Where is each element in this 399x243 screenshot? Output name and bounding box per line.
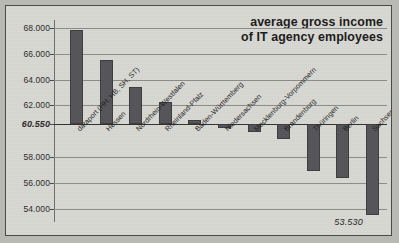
y-tick-label: 58.000: [23, 152, 50, 162]
gridline: [54, 28, 387, 29]
category-label: Sachsen: [370, 107, 392, 134]
bar: [366, 124, 379, 215]
y-tick-mark: [50, 157, 54, 158]
y-tick-mark: [50, 54, 54, 55]
gridline: [54, 183, 387, 184]
y-tick-label: 56.000: [23, 178, 50, 188]
plot-area: 68.00066.00064.00062.00060.55058.00056.0…: [54, 20, 387, 222]
y-tick-mark: [50, 80, 54, 81]
bar: [70, 30, 83, 124]
y-tick-mark: [50, 209, 54, 210]
y-tick-mark: [50, 183, 54, 184]
y-tick-label: 60.550: [22, 119, 50, 129]
y-tick-mark: [50, 124, 54, 125]
y-tick-label: 68.000: [23, 23, 50, 33]
gridline: [54, 209, 387, 210]
chart-card: average gross income of IT agency employ…: [5, 5, 392, 236]
y-tick-mark: [50, 28, 54, 29]
value-annotation: 53.530: [334, 217, 363, 227]
y-axis-line: [54, 20, 55, 222]
y-tick-label: 66.000: [23, 49, 50, 59]
gridline: [54, 54, 387, 55]
y-tick-mark: [50, 105, 54, 106]
y-tick-label: 54.000: [23, 204, 50, 214]
y-tick-label: 62.000: [23, 100, 50, 110]
y-tick-label: 64.000: [23, 75, 50, 85]
